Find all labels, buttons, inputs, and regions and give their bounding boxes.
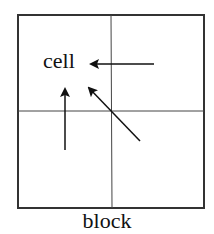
block-label: block [0, 210, 214, 232]
arrow-from-diagonal [89, 88, 140, 141]
block-diagram [0, 0, 214, 234]
cell-label: cell [43, 50, 75, 72]
